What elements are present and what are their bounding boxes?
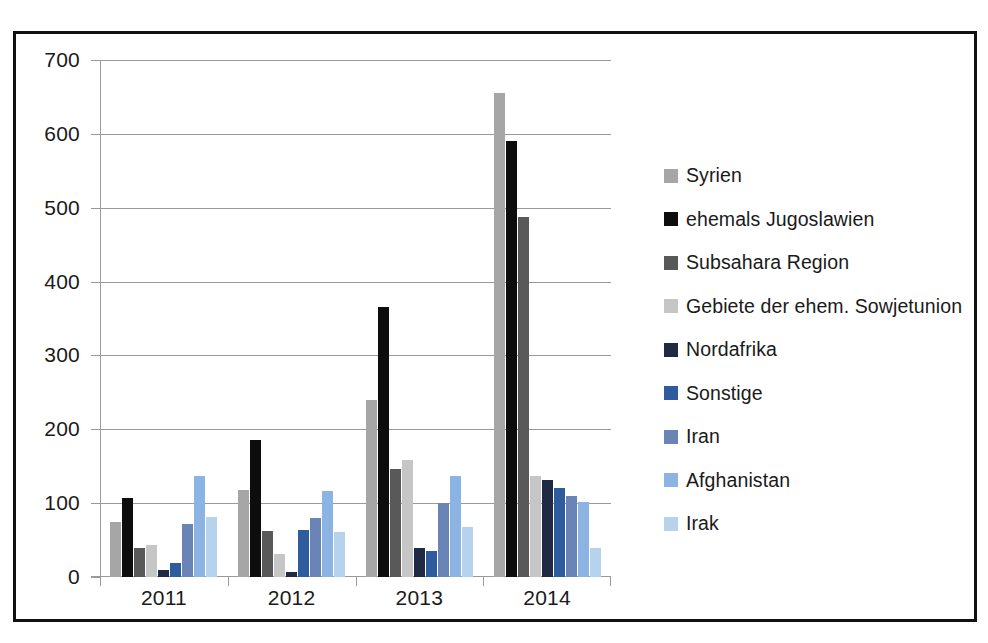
- bar-2011-series-4[interactable]: [158, 570, 169, 577]
- legend-item-0[interactable]: Syrien: [664, 154, 964, 198]
- bar-2014-series-7[interactable]: [578, 502, 589, 577]
- x-axis-tick: [610, 577, 611, 586]
- chart-legend: Syrienehemals JugoslawienSubsahara Regio…: [664, 154, 964, 546]
- y-axis-tick: [91, 355, 100, 356]
- legend-item-1[interactable]: ehemals Jugoslawien: [664, 198, 964, 242]
- legend-swatch-icon: [664, 169, 678, 183]
- bar-group-2013: [356, 60, 484, 577]
- bar-2012-series-1[interactable]: [250, 440, 261, 577]
- bar-2012-series-2[interactable]: [262, 531, 273, 577]
- legend-label: Afghanistan: [686, 469, 790, 492]
- y-axis-tick-label: 400: [44, 270, 80, 294]
- legend-item-5[interactable]: Sonstige: [664, 372, 964, 416]
- bar-2013-series-6[interactable]: [438, 503, 449, 577]
- y-axis-tick-label: 300: [44, 343, 80, 367]
- y-axis-tick: [91, 134, 100, 135]
- legend-label: Nordafrika: [686, 338, 777, 361]
- plot-area: [100, 60, 611, 577]
- x-axis-tick: [483, 577, 484, 586]
- bar-2011-series-0[interactable]: [110, 522, 121, 577]
- legend-swatch-icon: [664, 430, 678, 444]
- y-axis-labels: 7006005004003002001000: [16, 34, 88, 619]
- bar-2011-series-5[interactable]: [170, 563, 181, 577]
- bar-2012-series-4[interactable]: [286, 572, 297, 577]
- x-axis-tick: [228, 577, 229, 586]
- bar-2011-series-7[interactable]: [194, 476, 205, 577]
- bar-2014-series-1[interactable]: [506, 141, 517, 577]
- legend-label: Iran: [686, 425, 720, 448]
- bar-2014-series-6[interactable]: [566, 496, 577, 577]
- y-axis-tick-label: 200: [44, 417, 80, 441]
- bar-2013-series-5[interactable]: [426, 551, 437, 577]
- bar-2013-series-4[interactable]: [414, 548, 425, 577]
- y-axis-tick-label: 100: [44, 491, 80, 515]
- bar-2012-series-7[interactable]: [322, 491, 333, 577]
- bar-2012-series-5[interactable]: [298, 530, 309, 577]
- bar-2011-series-2[interactable]: [134, 548, 145, 577]
- bar-2011-series-6[interactable]: [182, 524, 193, 577]
- legend-label: Subsahara Region: [686, 251, 849, 274]
- bar-2012-series-0[interactable]: [238, 490, 249, 577]
- legend-swatch-icon: [664, 386, 678, 400]
- bar-2013-series-7[interactable]: [450, 476, 461, 577]
- x-axis-tick: [100, 577, 101, 586]
- bar-group-2012: [228, 60, 356, 577]
- legend-swatch-icon: [664, 343, 678, 357]
- legend-label: Sonstige: [686, 382, 763, 405]
- legend-item-4[interactable]: Nordafrika: [664, 328, 964, 372]
- bar-2014-series-8[interactable]: [590, 548, 601, 577]
- legend-label: ehemals Jugoslawien: [686, 208, 874, 231]
- legend-swatch-icon: [664, 517, 678, 531]
- y-axis-tick: [91, 282, 100, 283]
- y-axis-tick-label: 500: [44, 196, 80, 220]
- bar-2011-series-3[interactable]: [146, 545, 157, 577]
- bar-2013-series-1[interactable]: [378, 307, 389, 577]
- legend-swatch-icon: [664, 212, 678, 226]
- legend-item-8[interactable]: Irak: [664, 502, 964, 546]
- chart-frame: 7006005004003002001000 2011201220132014 …: [13, 31, 977, 622]
- y-axis-tick: [91, 503, 100, 504]
- y-axis-tick: [91, 60, 100, 61]
- x-axis-labels: 2011201220132014: [100, 586, 611, 610]
- y-axis-tick-label: 600: [44, 122, 80, 146]
- bar-2012-series-3[interactable]: [274, 554, 285, 577]
- legend-swatch-icon: [664, 299, 678, 313]
- y-axis-tick: [91, 429, 100, 430]
- x-axis-tick-label: 2011: [100, 586, 228, 610]
- legend-item-7[interactable]: Afghanistan: [664, 459, 964, 503]
- legend-label: Irak: [686, 512, 719, 535]
- x-axis-tick: [356, 577, 357, 586]
- bar-2014-series-4[interactable]: [542, 480, 553, 577]
- bar-2011-series-8[interactable]: [206, 517, 217, 577]
- bar-group-2011: [100, 60, 228, 577]
- bar-2014-series-5[interactable]: [554, 488, 565, 577]
- y-axis-tick: [91, 208, 100, 209]
- bar-2012-series-8[interactable]: [334, 532, 345, 577]
- legend-label: Syrien: [686, 164, 742, 187]
- bar-2014-series-0[interactable]: [494, 93, 505, 577]
- bar-2014-series-3[interactable]: [530, 476, 541, 577]
- bar-2013-series-2[interactable]: [390, 469, 401, 577]
- legend-swatch-icon: [664, 473, 678, 487]
- legend-item-3[interactable]: Gebiete der ehem. Sowjetunion: [664, 285, 964, 329]
- bar-2014-series-2[interactable]: [518, 217, 529, 577]
- legend-label: Gebiete der ehem. Sowjetunion: [686, 295, 962, 318]
- x-axis-tick-label: 2014: [483, 586, 611, 610]
- bar-2013-series-8[interactable]: [462, 527, 473, 577]
- legend-swatch-icon: [664, 256, 678, 270]
- x-axis-tick-label: 2013: [356, 586, 484, 610]
- bar-2011-series-1[interactable]: [122, 498, 133, 577]
- bar-groups: [100, 60, 611, 577]
- bar-group-2014: [483, 60, 611, 577]
- bar-2012-series-6[interactable]: [310, 518, 321, 577]
- chart-body: 7006005004003002001000 2011201220132014 …: [16, 34, 974, 619]
- x-axis-tick-label: 2012: [228, 586, 356, 610]
- y-axis-tick-label: 700: [44, 48, 80, 72]
- bar-2013-series-3[interactable]: [402, 460, 413, 577]
- y-axis-tick: [91, 577, 100, 578]
- legend-item-6[interactable]: Iran: [664, 415, 964, 459]
- y-axis-tick-label: 0: [68, 565, 80, 589]
- bar-2013-series-0[interactable]: [366, 400, 377, 577]
- legend-item-2[interactable]: Subsahara Region: [664, 241, 964, 285]
